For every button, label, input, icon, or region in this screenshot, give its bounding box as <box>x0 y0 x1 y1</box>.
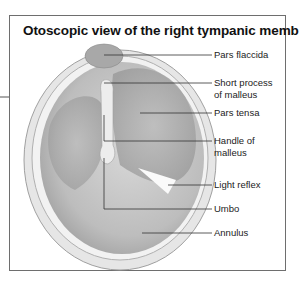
label-light-reflex: Light reflex <box>214 179 260 191</box>
label-annulus: Annulus <box>214 227 248 239</box>
label-pars-flaccida: Pars flaccida <box>214 49 268 61</box>
label-umbo: Umbo <box>214 203 239 215</box>
label-pars-tensa: Pars tensa <box>214 107 259 119</box>
pars-flaccida <box>85 44 123 68</box>
label-short-process-of-malleus: Short processof malleus <box>214 77 273 101</box>
label-handle-of-malleus: Handle ofmalleus <box>214 135 255 159</box>
malleus-handle <box>100 80 115 164</box>
